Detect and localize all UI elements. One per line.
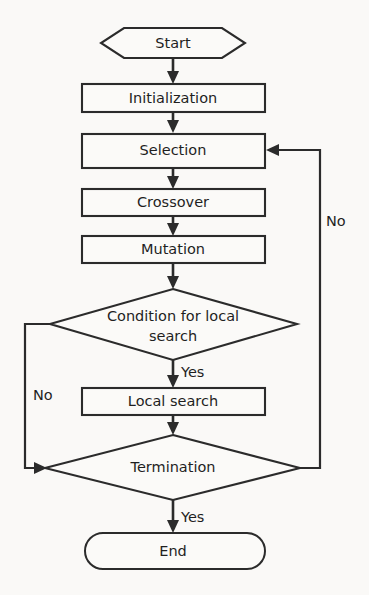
node-crossover[interactable]: Crossover <box>82 189 265 216</box>
flowchart-canvas: Start Initialization Selection Crossover… <box>0 0 369 595</box>
node-start[interactable]: Start <box>101 28 245 58</box>
edge-selection-to-crossover <box>167 168 179 189</box>
edge-initialization-to-selection <box>167 112 179 133</box>
edge-start-to-initialization <box>167 58 179 84</box>
edge-termination-no-loopback <box>266 144 320 468</box>
node-mutation[interactable]: Mutation <box>82 236 265 263</box>
node-initialization[interactable]: Initialization <box>82 84 265 112</box>
node-local-search-label: Local search <box>128 393 218 409</box>
node-termination-label: Termination <box>129 459 215 475</box>
node-condition-label-line2: search <box>149 328 197 344</box>
node-condition-for-local-search[interactable]: Condition for local search <box>50 289 297 360</box>
node-mutation-label: Mutation <box>141 241 205 257</box>
edge-label-termination-no: No <box>326 213 346 229</box>
edge-label-condition-yes: Yes <box>180 364 204 380</box>
edge-mutation-to-condition <box>167 262 179 289</box>
node-selection[interactable]: Selection <box>82 134 265 168</box>
edge-local-search-to-termination <box>167 415 179 435</box>
edge-crossover-to-mutation <box>167 215 179 236</box>
node-termination[interactable]: Termination <box>45 435 300 500</box>
node-end[interactable]: End <box>85 533 265 569</box>
edge-condition-yes-to-local-search <box>167 360 179 388</box>
edge-termination-yes-to-end <box>167 500 179 533</box>
node-initialization-label: Initialization <box>129 90 217 106</box>
node-selection-label: Selection <box>140 142 207 158</box>
node-end-label: End <box>159 543 187 559</box>
node-start-label: Start <box>155 35 191 51</box>
edge-label-condition-no: No <box>33 387 53 403</box>
flowchart-page: Start Initialization Selection Crossover… <box>0 0 369 595</box>
edge-label-termination-yes: Yes <box>180 509 204 525</box>
node-local-search[interactable]: Local search <box>82 388 265 415</box>
node-condition-label-line1: Condition for local <box>107 308 239 324</box>
node-crossover-label: Crossover <box>137 194 209 210</box>
